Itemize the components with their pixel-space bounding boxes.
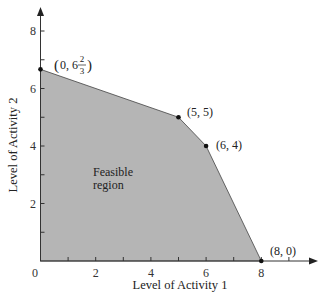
svg-text:3: 3 [80,66,85,76]
point-label-8-0: (8, 0) [270,244,296,258]
y-tick-label: 8 [30,24,36,38]
corner-point-marker [38,67,43,72]
svg-text:0, 6: 0, 6 [60,58,78,72]
feasible-region-label-line2: region [93,178,124,192]
svg-text:): ) [87,57,92,74]
corner-point-marker [259,259,264,264]
x-axis-arrow-icon [309,258,318,265]
y-axis-title: Level of Activity 2 [6,98,20,193]
point-label-0-6-2-3: ( 0, 6 2 3 ) [54,54,92,76]
corner-point-marker [204,144,209,149]
x-tick-label: 0 [32,266,38,280]
point-label-6-4: (6, 4) [216,138,242,152]
feasible-region-chart: 02468 2468 Level of Activity 1 Level of … [0,0,320,296]
x-axis-title: Level of Activity 1 [133,278,228,292]
feasible-region-label-line1: Feasible [93,165,133,179]
feasible-region-area [41,69,262,261]
y-tick-label: 4 [30,139,36,153]
x-tick-label: 8 [258,266,264,280]
y-axis-arrow-icon [37,7,44,16]
x-tick-label: 2 [93,266,99,280]
svg-text:2: 2 [80,54,85,64]
svg-text:(: ( [54,57,59,74]
y-tick-label: 2 [30,197,36,211]
corner-point-marker [176,115,181,120]
point-label-5-5: (5, 5) [187,105,213,119]
y-tick-label: 6 [30,82,36,96]
